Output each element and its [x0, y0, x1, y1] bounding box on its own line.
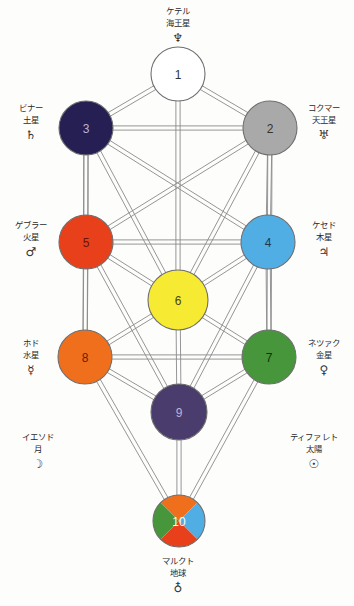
sephira-10[interactable]: 10 [151, 493, 207, 549]
label-chesed-sephira-name: ケセド [147, 220, 354, 232]
label-kether: ケテル海王星♆ [1, 6, 354, 48]
neptune-symbol: ♆ [1, 30, 354, 47]
edge-3-4 [107, 140, 248, 230]
edge-2-5 [107, 140, 250, 231]
sun-symbol: ☉ [137, 456, 354, 473]
sephira-1[interactable]: 1 [151, 47, 205, 101]
label-malkuth: マルクト地球♁ [1, 556, 354, 598]
jupiter-symbol: ♃ [147, 244, 354, 261]
label-chokmah: コクマー天王星♅ [147, 103, 354, 145]
label-tiphareth: ティファレト太陽☉ [137, 432, 354, 474]
label-netzach: ネツァク金星♀ [147, 338, 354, 380]
label-chokmah-sephira-name: コクマー [147, 103, 354, 115]
sephira-6[interactable]: 6 [148, 270, 208, 330]
earth-symbol: ♁ [1, 580, 354, 597]
label-malkuth-sephira-name: マルクト [1, 556, 354, 568]
sephira-9-number: 9 [176, 406, 183, 420]
venus-symbol: ♀ [147, 362, 354, 379]
label-kether-planet-name: 海王星 [1, 18, 354, 30]
sephira-6-number: 6 [175, 294, 182, 308]
label-malkuth-planet-name: 地球 [1, 568, 354, 580]
label-chokmah-planet-name: 天王星 [147, 115, 354, 127]
sephira-10-number: 10 [172, 515, 186, 529]
label-tiphareth-sephira-name: ティファレト [137, 432, 354, 444]
label-netzach-sephira-name: ネツァク [147, 338, 354, 350]
uranus-symbol: ♅ [147, 127, 354, 144]
label-kether-sephira-name: ケテル [1, 6, 354, 18]
label-netzach-planet-name: 金星 [147, 350, 354, 362]
sephira-1-number: 1 [175, 68, 182, 82]
label-tiphareth-planet-name: 太陽 [137, 444, 354, 456]
tree-graphic: 12345678910 [0, 0, 354, 606]
tree-of-life-diagram: 12345678910 ケテル海王星♆ビナー土星♄コクマー天王星♅ゲブラー火星♂… [0, 0, 354, 606]
label-chesed-planet-name: 木星 [147, 232, 354, 244]
label-chesed: ケセド木星♃ [147, 220, 354, 262]
